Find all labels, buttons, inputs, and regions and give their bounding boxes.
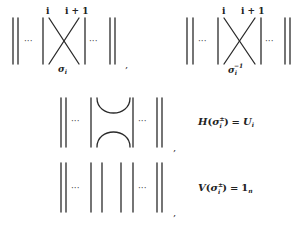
generator-superscript: −1 (234, 62, 243, 69)
sigma-diagram: ··· ··· , i i + 1 σi (13, 6, 128, 75)
generator-subscript: i (65, 68, 68, 75)
ellipsis: ··· (89, 36, 98, 46)
cup-arc (97, 98, 130, 113)
vertical-formula: V(σ±i)=1n (198, 181, 253, 195)
strand-label-i: i (222, 6, 226, 16)
formula-subscript: i (218, 188, 221, 195)
ellipsis: ··· (71, 183, 80, 193)
vertical-diagram: ··· ··· , V(σ±i)=1n (61, 163, 253, 218)
ellipsis: ··· (265, 36, 274, 46)
ellipsis: ··· (198, 36, 207, 46)
formula-rhs-subscript: n (248, 187, 252, 194)
horizontal-formula: H(σ±i)=Ui (197, 115, 255, 129)
ellipsis: ··· (138, 116, 147, 126)
formula-equals: = (230, 182, 238, 193)
generator-subscript: i (235, 69, 238, 76)
formula-rhs-subscript: i (252, 121, 255, 128)
cap-arc (97, 132, 130, 147)
horizontal-diagram: ··· ··· , H(σ±i)=Ui (61, 98, 255, 153)
separator-comma: , (125, 59, 128, 70)
formula-paren-close: ) (222, 182, 227, 193)
ellipsis: ··· (138, 183, 147, 193)
ellipsis: ··· (71, 116, 80, 126)
strand-label-i-plus-1: i + 1 (65, 6, 89, 16)
formula-rhs: 1 (241, 182, 248, 193)
formula-paren-close: ) (224, 116, 229, 127)
ellipsis: ··· (24, 36, 33, 46)
generator-label: σi (58, 64, 68, 75)
formula-equals: = (232, 116, 240, 127)
separator-comma: , (173, 142, 176, 153)
strand-label-i: i (46, 6, 50, 16)
strand-label-i-plus-1: i + 1 (241, 6, 265, 16)
formula-func: H (197, 116, 208, 127)
formula-subscript: i (220, 122, 223, 129)
separator-comma: , (173, 207, 176, 218)
sigma-inverse-diagram: ··· ··· i i + 1 σi−1 (187, 6, 290, 76)
braid-diagrams: ··· ··· , i i + 1 σi ··· ··· i i + 1 σi−… (0, 0, 297, 241)
generator-label: σi−1 (228, 62, 243, 76)
